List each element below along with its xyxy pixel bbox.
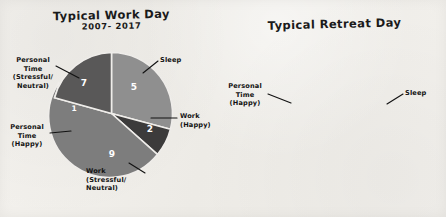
work-callout-personal-stressful-line1: Personal bbox=[8, 56, 58, 65]
retreat-day-chart-panel: Typical Retreat Day 8 16 Sleep Personal … bbox=[223, 0, 446, 217]
retreat-callout-sleep-line1: Sleep bbox=[405, 89, 426, 98]
work-callout-personal-happy: Personal Time (Happy) bbox=[4, 123, 50, 149]
work-callout-sleep: Sleep bbox=[160, 56, 181, 65]
callout-line-retreat-sleep bbox=[387, 94, 403, 104]
retreat-callout-personal-happy-line2: Time bbox=[222, 91, 268, 100]
work-callout-work-stressful-line1: Work bbox=[86, 167, 160, 176]
retreat-callout-personal-happy-line3: (Happy) bbox=[222, 99, 268, 108]
work-callout-work-happy: Work (Happy) bbox=[180, 112, 211, 129]
work-day-chart-panel: Typical Work Day 2007- 2017 5 2 9 1 7 bbox=[0, 0, 223, 217]
retreat-day-callout-lines bbox=[223, 0, 446, 217]
retreat-callout-personal-happy-line1: Personal bbox=[222, 82, 268, 91]
work-callout-work-stressful-line3: Neutral) bbox=[86, 184, 160, 193]
work-callout-sleep-line1: Sleep bbox=[160, 56, 181, 65]
work-callout-personal-stressful-line2: Time bbox=[8, 65, 58, 74]
work-callout-work-happy-line2: (Happy) bbox=[180, 121, 211, 130]
callout-line-retreat-personal-happy bbox=[268, 94, 291, 103]
work-callout-personal-stressful-line3: (Stressful/ bbox=[8, 73, 58, 82]
work-callout-personal-stressful: Personal Time (Stressful/ Neutral) bbox=[8, 56, 58, 91]
work-callout-work-happy-line1: Work bbox=[180, 112, 211, 121]
callout-line-sleep bbox=[143, 61, 158, 73]
retreat-callout-personal-happy: Personal Time (Happy) bbox=[222, 82, 268, 108]
work-callout-work-stressful-line2: (Stressful/ bbox=[86, 176, 160, 185]
work-callout-personal-happy-line1: Personal bbox=[4, 123, 50, 132]
callout-line-personal-stressful bbox=[56, 66, 79, 78]
work-callout-personal-happy-line3: (Happy) bbox=[4, 140, 50, 149]
retreat-callout-sleep: Sleep bbox=[405, 89, 426, 98]
work-callout-work-stressful: Work (Stressful/ Neutral) bbox=[86, 167, 160, 193]
work-callout-personal-stressful-line4: Neutral) bbox=[8, 82, 58, 91]
callout-line-personal-happy bbox=[50, 131, 71, 133]
work-callout-personal-happy-line2: Time bbox=[4, 132, 50, 141]
